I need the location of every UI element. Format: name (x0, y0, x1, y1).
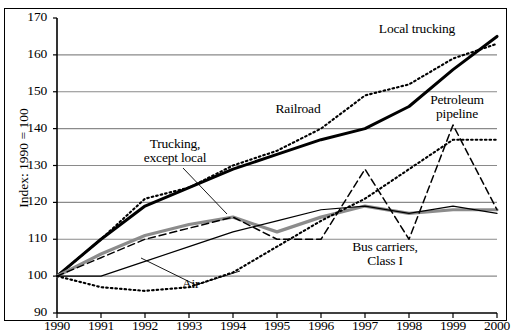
annotation-petroleum-line1: Petroleum (430, 92, 484, 107)
annotation-trucking-except-local: Trucking, except local (120, 137, 230, 165)
x-tick-label: 1990 (34, 318, 80, 334)
x-tick-label: 1994 (210, 318, 256, 334)
annotation-trucking-line1: Trucking, (150, 136, 201, 151)
x-tick-label: 1999 (430, 318, 476, 334)
y-tick-label: 100 (13, 267, 47, 283)
x-tick-label: 1997 (342, 318, 388, 334)
y-tick-label: 120 (13, 193, 47, 209)
annotation-bus-carriers: Bus carriers, Class I (330, 240, 440, 268)
annotation-railroad: Railroad (258, 102, 338, 116)
y-tick-label: 150 (13, 83, 47, 99)
x-tick-label: 2000 (474, 318, 511, 334)
annotation-air: Air (182, 277, 242, 291)
x-tick-label: 1998 (386, 318, 432, 334)
y-tick-label: 130 (13, 157, 47, 173)
y-tick-label: 160 (13, 46, 47, 62)
y-tick-label: 110 (13, 230, 47, 246)
annotation-bus-line1: Bus carriers, (352, 239, 418, 254)
x-tick-label: 1992 (122, 318, 168, 334)
annotation-petroleum-pipeline: Petroleum pipeline (412, 93, 502, 121)
x-tick-label: 1995 (254, 318, 300, 334)
x-tick-label: 1991 (78, 318, 124, 334)
annotation-bus-line2: Class I (367, 253, 403, 268)
annotation-trucking-line2: except local (144, 150, 206, 165)
annotation-petroleum-line2: pipeline (436, 106, 478, 121)
annotation-local-trucking: Local trucking (357, 22, 477, 36)
x-tick-label: 1996 (298, 318, 344, 334)
y-tick-label: 170 (13, 9, 47, 25)
y-tick-label: 140 (13, 120, 47, 136)
x-tick-label: 1993 (166, 318, 212, 334)
